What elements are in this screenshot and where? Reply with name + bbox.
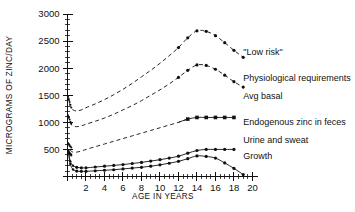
data-point [69,163,71,165]
x-tick-label: 2 [83,182,88,193]
data-point [70,155,72,157]
chart-canvas: 50010001500200025003000 2468101214161820… [0,0,355,212]
series-line [68,30,243,111]
y-tick-label: 2500 [38,35,59,46]
data-point [223,161,226,164]
data-point [149,159,152,162]
data-point [84,170,87,173]
series-label-3: Endogenous zinc in feces [243,117,346,127]
data-point [186,36,189,39]
data-point [140,166,143,169]
data-point [232,116,236,120]
series-label-0: "Low risk" [243,47,282,57]
data-point [68,98,70,100]
data-point [232,80,235,83]
y-tick-label: 1000 [38,117,59,128]
x-tick-label: 4 [102,182,107,193]
x-tick-label: 18 [229,182,240,193]
data-point [214,148,217,151]
data-point [223,74,226,77]
series-label-5: Growth [243,151,272,161]
data-point [149,165,152,168]
data-point [232,167,235,170]
data-point [205,148,208,151]
series-label-1: Physiological requirements [243,73,351,83]
data-point [67,114,69,116]
data-point [94,165,97,168]
y-tick-label: 2000 [38,63,59,74]
data-point [121,167,124,170]
y-tick-label: 500 [44,144,60,155]
data-point [103,165,106,168]
data-point [72,168,74,170]
data-point [232,148,235,151]
data-point [70,123,72,125]
data-point [177,46,180,49]
data-point [68,116,70,118]
data-point [69,101,71,103]
data-point [168,156,171,159]
data-point [214,156,217,159]
data-point [195,29,198,32]
data-point [177,160,180,163]
data-point [223,148,226,151]
data-point [214,34,217,37]
series-5 [67,151,245,176]
y-tick-label: 1500 [38,90,59,101]
data-point [205,30,208,33]
data-point [186,69,189,72]
data-point [232,49,235,52]
y-axis-title: MICROGRAMS OF ZINC/DAY [5,36,14,155]
data-point [112,164,115,167]
data-point [69,104,71,106]
data-point [204,116,208,120]
x-axis-title: AGE IN YEARS [132,192,194,201]
data-point [80,170,83,173]
data-point [72,164,74,166]
data-point [75,169,78,172]
data-point [140,161,143,164]
data-point [195,63,198,66]
data-point [177,155,180,158]
data-point [195,116,199,120]
data-point [70,147,72,149]
data-point [131,162,134,165]
data-point [205,64,208,67]
series-label-2: Avg basal [243,91,282,101]
data-point [242,86,245,89]
x-tick-label: 20 [247,182,258,193]
data-point [214,68,217,71]
data-point [223,116,227,120]
series-labels-group: "Low risk"Physiological requirementsAvg … [243,47,351,161]
data-point [242,173,245,176]
series-label-4: Urine and sweat [243,135,309,145]
data-point [223,41,226,44]
data-point [195,149,198,152]
data-point [69,119,71,121]
series-0 [68,29,244,111]
data-point [168,162,171,165]
x-axis-ticks [68,172,253,181]
data-point [80,166,83,169]
axes-group [68,14,259,177]
data-point [84,166,87,169]
data-point [131,167,134,170]
data-point [177,76,180,79]
series-line-dashed [68,119,187,152]
data-point [121,163,124,166]
data-point [75,166,78,169]
data-point [186,152,189,155]
data-point [112,168,115,171]
data-point [67,95,69,97]
y-tick-label: 3000 [38,8,59,19]
data-point [103,169,106,172]
zinc-requirements-chart: 50010001500200025003000 2468101214161820… [0,0,355,212]
data-point [186,157,189,160]
x-tick-label: 6 [120,182,125,193]
data-point [158,163,161,166]
data-point [69,121,71,123]
data-point [158,158,161,161]
y-axis-tick-labels: 50010001500200025003000 [38,8,59,154]
data-point [214,116,218,120]
data-point [186,117,190,121]
